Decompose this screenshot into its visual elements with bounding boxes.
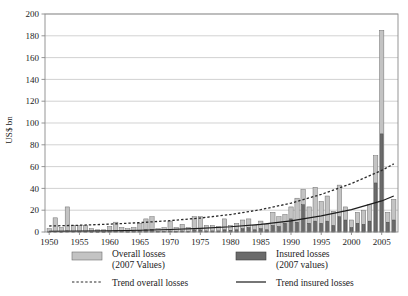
y-tick-label: 140 (26, 75, 40, 85)
insured-loss-bar (386, 222, 389, 232)
insured-loss-bar (368, 221, 371, 232)
y-axis-title: US$ bn (4, 116, 14, 144)
chart-container: 020406080100120140160180200 195019551960… (0, 0, 408, 296)
x-tick-label: 1985 (252, 237, 271, 247)
insured-loss-bar (284, 223, 287, 232)
y-tick-label: 100 (26, 118, 40, 128)
insured-loss-bar (344, 220, 347, 232)
insured-loss-bar (241, 229, 244, 232)
overall-loss-bar (65, 207, 69, 232)
insured-loss-bar (271, 225, 274, 232)
insured-loss-bar (362, 224, 365, 232)
losses-bar-chart: 020406080100120140160180200 195019551960… (0, 0, 408, 296)
y-tick-label: 0 (35, 227, 40, 237)
insured-loss-bar (278, 227, 281, 232)
x-tick-label: 1990 (282, 237, 301, 247)
x-tick-label: 1960 (101, 237, 120, 247)
x-tick-label: 1975 (191, 237, 210, 247)
insured-loss-bar (259, 229, 262, 232)
x-tick-label: 2000 (342, 237, 361, 247)
x-tick-label: 1955 (70, 237, 89, 247)
insured-loss-bar (356, 223, 359, 232)
insured-loss-bar (350, 228, 353, 232)
insured-loss-bar (326, 221, 329, 232)
overall-loss-bar (168, 221, 172, 232)
x-tick-label: 1995 (312, 237, 331, 247)
y-tick-label: 180 (26, 31, 40, 41)
legend-label-trend-overall: Trend overall losses (112, 278, 188, 288)
y-tick-label: 120 (26, 96, 40, 106)
x-tick-label: 1980 (222, 237, 241, 247)
legend-swatch-overall-losses (72, 252, 102, 260)
x-tick-label: 1970 (161, 237, 180, 247)
insured-loss-bar (296, 222, 299, 232)
legend-label-insured-losses: Insured losses (276, 249, 330, 259)
insured-loss-bar (374, 183, 377, 232)
y-tick-label: 160 (26, 53, 40, 63)
x-tick-label: 2005 (373, 237, 392, 247)
insured-loss-bar (320, 223, 323, 232)
y-tick-label: 40 (30, 184, 40, 194)
y-tick-label: 200 (26, 9, 40, 19)
x-tick-label: 1950 (40, 237, 59, 247)
chart-background (0, 0, 408, 296)
insured-loss-bar (314, 221, 317, 232)
overall-loss-bar (53, 218, 57, 232)
insured-loss-bar (332, 225, 335, 232)
insured-loss-bar (247, 228, 250, 232)
legend-label-trend-insured: Trend insured losses (276, 278, 354, 288)
legend-sublabel-overall-losses: (2007 Values) (112, 260, 165, 271)
legend-label-overall-losses: Overall losses (112, 249, 166, 259)
legend-sublabel-insured-losses: (2007 values) (276, 260, 328, 271)
y-tick-label: 20 (30, 205, 40, 215)
y-tick-label: 80 (30, 140, 40, 150)
x-tick-label: 1965 (131, 237, 150, 247)
insured-loss-bar (308, 223, 311, 232)
insured-loss-bar (392, 220, 395, 232)
insured-loss-bar (380, 134, 383, 232)
insured-loss-bar (338, 217, 341, 232)
y-tick-label: 60 (30, 162, 40, 172)
legend-swatch-insured-losses (236, 252, 266, 260)
